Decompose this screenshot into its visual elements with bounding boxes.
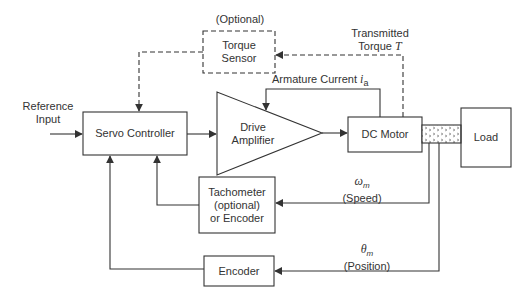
transmitted-line2: Torque T bbox=[330, 40, 430, 53]
servo-controller-label: Servo Controller bbox=[83, 112, 187, 155]
torque-sensor-line2: Sensor bbox=[222, 52, 257, 65]
armature-current-text: Armature Current bbox=[272, 73, 360, 85]
load-label: Load bbox=[461, 108, 511, 167]
torque-sensor-label: Torque Sensor bbox=[203, 31, 275, 73]
drive-line2: Amplifier bbox=[222, 134, 284, 147]
reference-line1: Reference bbox=[18, 100, 78, 113]
speed-symbol-line: ωm bbox=[330, 175, 394, 192]
armature-current-subscript: a bbox=[363, 78, 368, 88]
shaft-coupling bbox=[422, 125, 461, 143]
tachometer-line3: or Encoder bbox=[210, 212, 264, 225]
reference-input-label: Reference Input bbox=[18, 100, 78, 126]
torque-symbol: T bbox=[395, 39, 402, 53]
torque-sensor-optional-note: (Optional) bbox=[212, 13, 268, 26]
speed-label: ωm (Speed) bbox=[330, 175, 394, 205]
armature-current-label: Armature Current ia bbox=[272, 73, 368, 90]
speed-text: (Speed) bbox=[330, 192, 394, 205]
reference-line2: Input bbox=[18, 113, 78, 126]
armature-current-arrow bbox=[266, 89, 380, 117]
torque-sensor-line1: Torque bbox=[222, 39, 256, 52]
torque-to-controller-arrow bbox=[139, 52, 203, 111]
drive-line1: Drive bbox=[222, 121, 284, 134]
encoder-label: Encoder bbox=[204, 256, 274, 286]
transmitted-torque-label: Transmitted Torque T bbox=[330, 27, 430, 53]
transmitted-line1: Transmitted bbox=[330, 27, 430, 40]
speed-subscript: m bbox=[363, 181, 370, 190]
position-label: θm (Position) bbox=[334, 243, 400, 273]
tachometer-label: Tachometer (optional) or Encoder bbox=[199, 177, 275, 233]
omega-symbol: ω bbox=[354, 174, 362, 188]
tachometer-line1: Tachometer bbox=[208, 186, 265, 199]
position-subscript: m bbox=[367, 249, 374, 258]
tachometer-line2: (optional) bbox=[214, 199, 260, 212]
transmitted-line2-prefix: Torque bbox=[358, 40, 395, 52]
drive-amplifier-label: Drive Amplifier bbox=[222, 121, 284, 147]
position-text: (Position) bbox=[334, 260, 400, 273]
dc-motor-label: DC Motor bbox=[348, 117, 422, 152]
tachometer-to-controller-arrow bbox=[157, 156, 199, 205]
position-symbol-line: θm bbox=[334, 243, 400, 260]
